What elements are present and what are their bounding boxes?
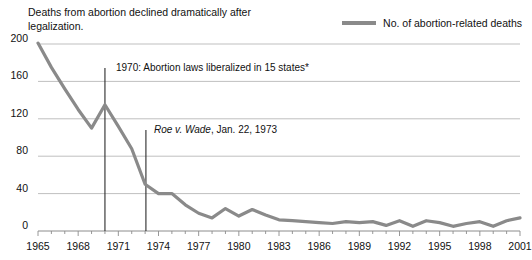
x-axis-tick-label: 1980: [219, 240, 259, 252]
x-axis-tick-label: 1965: [18, 240, 58, 252]
x-axis-tick-label: 1974: [139, 240, 179, 252]
chart-container: Deaths from abortion declined dramatical…: [0, 0, 532, 260]
annotation-1970: 1970: Abortion laws liberalized in 15 st…: [116, 62, 309, 73]
x-axis-tick-label: 1995: [420, 240, 460, 252]
x-axis-tick-label: 1986: [299, 240, 339, 252]
x-axis-tick-label: 1977: [179, 240, 219, 252]
x-axis-tick-label: 1971: [98, 240, 138, 252]
annotation-roe-italic: Roe v. Wade: [154, 124, 211, 135]
y-axis-tick-label: 120: [2, 107, 28, 119]
x-axis-tick-label: 1992: [380, 240, 420, 252]
y-axis-tick-label: 200: [2, 32, 28, 44]
annotation-roe-rest: , Jan. 22, 1973: [211, 124, 277, 135]
y-axis-tick-label: 160: [2, 69, 28, 81]
x-axis-tick-label: 1968: [58, 240, 98, 252]
x-axis-tick-label: 1998: [460, 240, 500, 252]
annotation-roe-v-wade: Roe v. Wade, Jan. 22, 1973: [154, 124, 277, 135]
x-axis-tick-label: 2001: [500, 240, 532, 252]
x-tick-marks: [38, 231, 520, 236]
x-axis-tick-label: 1983: [259, 240, 299, 252]
x-axis-tick-label: 1989: [339, 240, 379, 252]
annotation-1970-text: 1970: Abortion laws liberalized in 15 st…: [116, 62, 309, 73]
y-axis-tick-label: 0: [2, 219, 28, 231]
annotation-lines: [105, 68, 146, 231]
y-axis-tick-label: 40: [2, 182, 28, 194]
y-axis-tick-label: 80: [2, 144, 28, 156]
plot-area: 04080120160200 1965196819711974197719801…: [0, 0, 532, 260]
